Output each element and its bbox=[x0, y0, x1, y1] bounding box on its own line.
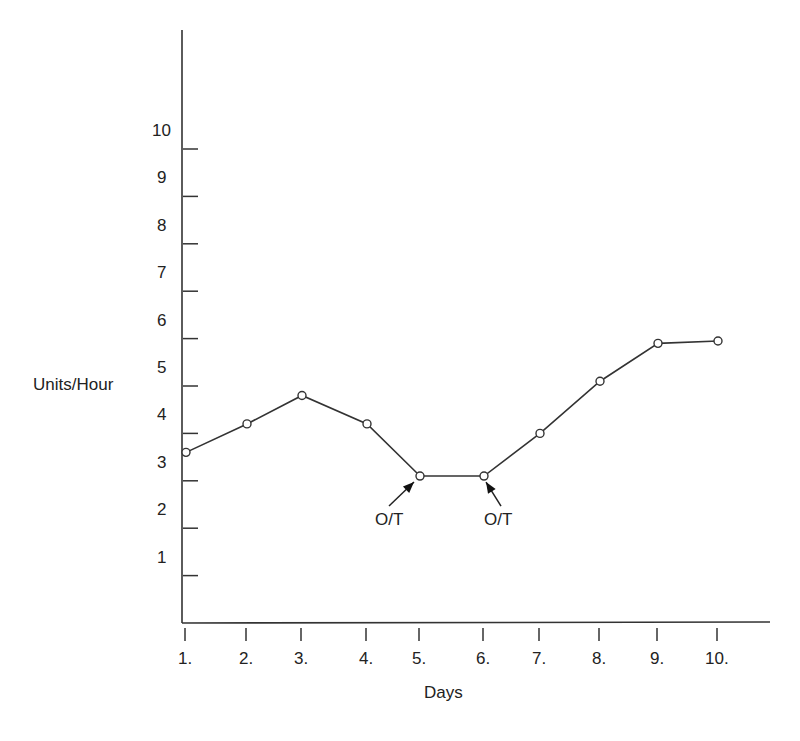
x-tick-label: 9. bbox=[650, 649, 664, 669]
x-tick-label: 10. bbox=[705, 649, 729, 669]
data-point-marker bbox=[363, 420, 371, 428]
data-point-marker bbox=[243, 420, 251, 428]
x-tick-label: 4. bbox=[359, 649, 373, 669]
y-tick-label: 1 bbox=[157, 548, 166, 568]
x-axis bbox=[182, 622, 770, 623]
x-tick-label: 2. bbox=[239, 649, 253, 669]
y-tick-label: 3 bbox=[157, 453, 166, 473]
data-point-marker bbox=[480, 472, 488, 480]
data-point-marker bbox=[654, 339, 662, 347]
x-tick-label: 3. bbox=[294, 649, 308, 669]
data-point-marker bbox=[298, 391, 306, 399]
data-line bbox=[186, 341, 718, 476]
x-tick-label: 6. bbox=[476, 649, 490, 669]
y-tick-label: 4 bbox=[157, 405, 166, 425]
y-tick-label: 8 bbox=[157, 216, 166, 236]
y-axis-label: Units/Hour bbox=[33, 375, 113, 395]
y-tick-label: 5 bbox=[157, 358, 166, 378]
annotation-label-ot: O/T bbox=[375, 510, 403, 530]
x-axis-label: Days bbox=[424, 683, 463, 703]
x-tick-label: 7. bbox=[532, 649, 546, 669]
x-tick-label: 1. bbox=[178, 649, 192, 669]
line-chart bbox=[0, 0, 800, 741]
data-point-marker bbox=[596, 377, 604, 385]
y-tick-label: 9 bbox=[157, 168, 166, 188]
x-tick-label: 5. bbox=[412, 649, 426, 669]
x-tick-label: 8. bbox=[592, 649, 606, 669]
annotation-arrows bbox=[389, 482, 501, 506]
data-point-marker bbox=[416, 472, 424, 480]
data-markers bbox=[182, 337, 722, 480]
y-tick-label: 6 bbox=[157, 311, 166, 331]
annotation-label-ot: O/T bbox=[484, 510, 512, 530]
arrowhead-icon bbox=[486, 482, 496, 494]
y-tick-label: 7 bbox=[157, 263, 166, 283]
data-point-marker bbox=[536, 429, 544, 437]
data-point-marker bbox=[182, 448, 190, 456]
y-ticks bbox=[183, 149, 198, 576]
x-ticks bbox=[185, 628, 717, 641]
data-point-marker bbox=[714, 337, 722, 345]
y-tick-label: 10 bbox=[152, 121, 171, 141]
y-tick-label: 2 bbox=[157, 500, 166, 520]
axes bbox=[182, 30, 770, 623]
